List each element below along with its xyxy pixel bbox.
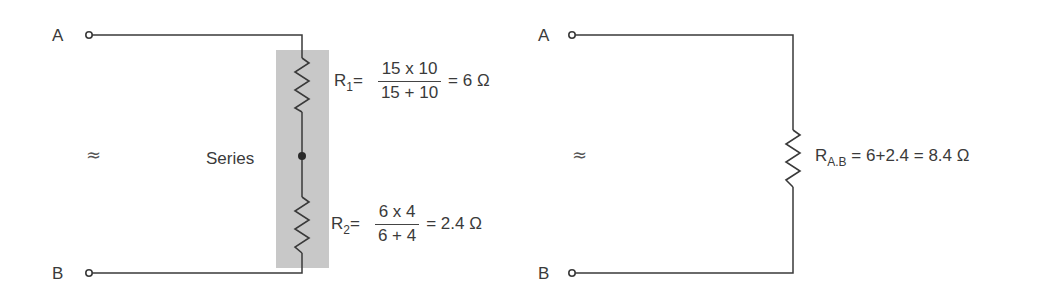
terminal-b-label-right: B <box>538 265 549 282</box>
terminal-a-node-right <box>569 32 575 38</box>
r1-equation: R1= 15 x 10 15 + 10 = 6 Ω <box>334 60 490 102</box>
wire-b-left <box>92 253 302 273</box>
rab-equation: RA.B = 6+2.4 = 8.4 Ω <box>815 146 969 166</box>
r1-numerator: 15 x 10 <box>378 60 442 82</box>
resistor-rab <box>786 130 800 187</box>
r1-result: = 6 Ω <box>448 71 490 91</box>
series-label: Series <box>206 150 254 167</box>
r2-equation: R2= 6 x 4 6 + 4 = 2.4 Ω <box>331 203 482 245</box>
terminal-a-node <box>86 32 92 38</box>
terminal-a-label: A <box>52 27 63 44</box>
r2-fraction: 6 x 4 6 + 4 <box>374 203 420 245</box>
rab-symbol: RA.B <box>815 146 847 166</box>
r2-denominator: 6 + 4 <box>374 225 420 246</box>
terminal-b-label: B <box>52 265 63 282</box>
r2-numerator: 6 x 4 <box>375 203 420 225</box>
wire-a-left <box>92 35 302 58</box>
approx-symbol-left: ≈ <box>86 146 101 164</box>
r2-result: = 2.4 Ω <box>426 214 482 234</box>
junction-dot <box>298 152 306 160</box>
r2-symbol: R2= <box>331 214 360 234</box>
r1-fraction: 15 x 10 15 + 10 <box>377 60 442 102</box>
terminal-b-node <box>86 270 92 276</box>
r1-symbol: R1= <box>334 71 363 91</box>
r1-denominator: 15 + 10 <box>377 82 442 103</box>
wire-b-right <box>575 187 793 273</box>
rab-expression: = 6+2.4 = 8.4 Ω <box>847 146 970 166</box>
wire-a-right <box>575 35 793 130</box>
approx-symbol-right: ≈ <box>572 146 587 164</box>
terminal-b-node-right <box>569 270 575 276</box>
terminal-a-label-right: A <box>538 27 549 44</box>
